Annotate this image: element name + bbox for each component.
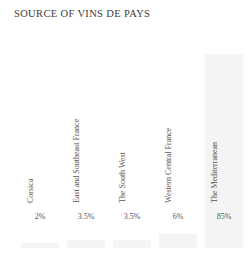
category-label: East and Southeast France <box>72 119 82 203</box>
chart-figure: SOURCE OF VINS DE PAYS Corsica2%East and… <box>0 0 252 255</box>
value-label: 85% <box>217 212 232 221</box>
category-label: Western Central France <box>164 128 174 203</box>
category-label-wrap: The South West <box>110 53 154 203</box>
category-label: The South West <box>118 152 128 203</box>
category-column: Western Central France6% <box>156 53 200 248</box>
category-column: The Mediterranean85% <box>202 53 246 248</box>
category-label-wrap: East and Southeast France <box>64 53 108 203</box>
plot-area: Corsica2%East and Southeast France3.5%Th… <box>0 20 252 248</box>
category-label-wrap: Western Central France <box>156 53 200 203</box>
value-label: 3.5% <box>124 212 141 221</box>
value-label: 6% <box>173 212 184 221</box>
value-label: 2% <box>35 212 46 221</box>
category-axis: Corsica2%East and Southeast France3.5%Th… <box>0 20 252 248</box>
chart-title: SOURCE OF VINS DE PAYS <box>14 8 150 19</box>
value-label: 3.5% <box>78 212 95 221</box>
category-column: East and Southeast France3.5% <box>64 53 108 248</box>
category-label: Corsica <box>26 179 36 203</box>
category-label-wrap: The Mediterranean <box>202 53 246 203</box>
category-column: The South West3.5% <box>110 53 154 248</box>
category-label: The Mediterranean <box>210 142 220 203</box>
category-label-wrap: Corsica <box>18 53 62 203</box>
category-column: Corsica2% <box>18 53 62 248</box>
